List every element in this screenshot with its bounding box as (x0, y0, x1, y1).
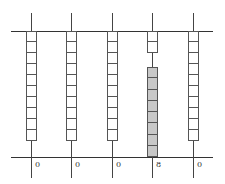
bead (26, 86, 37, 97)
bead (188, 42, 199, 53)
bead (26, 130, 37, 141)
bead-counted (147, 135, 158, 146)
bead-counted (147, 146, 158, 157)
bead (107, 130, 118, 141)
bead (66, 130, 77, 141)
bead (26, 53, 37, 64)
bead (66, 86, 77, 97)
bead (66, 53, 77, 64)
bead (147, 42, 158, 53)
bead (66, 97, 77, 108)
bead (188, 97, 199, 108)
bead (107, 86, 118, 97)
bead (66, 31, 77, 42)
bead (188, 64, 199, 75)
bead (188, 53, 199, 64)
bead (26, 64, 37, 75)
bead (26, 119, 37, 130)
bead (188, 86, 199, 97)
bead (107, 119, 118, 130)
bead (66, 108, 77, 119)
unused-bead-stack (188, 31, 199, 141)
bead (147, 31, 158, 42)
bead (107, 108, 118, 119)
bead (66, 64, 77, 75)
bead (107, 64, 118, 75)
bead (188, 130, 199, 141)
bead-counted (147, 123, 158, 134)
bead (188, 31, 199, 42)
bead (26, 97, 37, 108)
column-value-label: 8 (156, 160, 161, 169)
bead (66, 75, 77, 86)
bead (188, 108, 199, 119)
column-value-label: 0 (197, 160, 202, 169)
bead-counted (147, 67, 158, 78)
bead (107, 31, 118, 42)
column-value-label: 0 (116, 160, 121, 169)
bead-counted (147, 78, 158, 89)
bead (26, 108, 37, 119)
column-value-label: 0 (35, 160, 40, 169)
bead-counted (147, 101, 158, 112)
bead (66, 42, 77, 53)
bead-counted (147, 112, 158, 123)
bead (107, 75, 118, 86)
unused-bead-stack (26, 31, 37, 141)
bead (26, 42, 37, 53)
bead (66, 119, 77, 130)
bead (107, 53, 118, 64)
bead (107, 42, 118, 53)
bead (26, 31, 37, 42)
bead-counted (147, 90, 158, 101)
unused-bead-stack (66, 31, 77, 141)
bead (107, 97, 118, 108)
unused-bead-stack (147, 31, 158, 53)
counted-bead-stack (147, 67, 158, 157)
bead (26, 75, 37, 86)
bead (188, 119, 199, 130)
bead (188, 75, 199, 86)
column-value-label: 0 (75, 160, 80, 169)
unused-bead-stack (107, 31, 118, 141)
